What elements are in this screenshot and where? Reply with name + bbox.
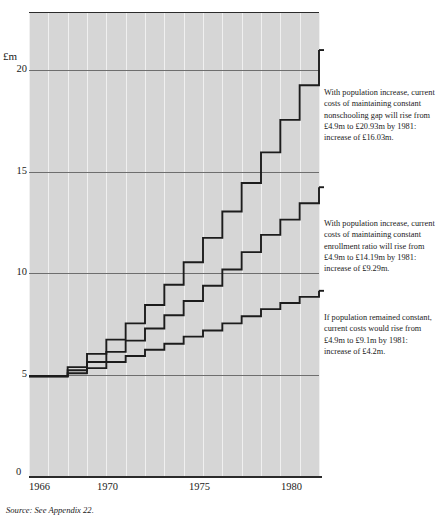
vertical-gridline [319, 13, 320, 476]
horizontal-gridline [29, 172, 319, 173]
horizontal-gridline [29, 273, 319, 274]
vertical-gridline [242, 13, 243, 476]
figure-container: £m 20 15 10 5 0 1966 1970 1975 1980 With… [0, 0, 439, 526]
vertical-gridline [300, 13, 301, 476]
y-axis-labels: £m 20 15 10 5 [0, 0, 27, 526]
vertical-gridline [164, 13, 165, 476]
plot-area [29, 12, 319, 476]
vertical-gridline [203, 13, 204, 476]
annotation-constant-population: If population remained constant, current… [324, 312, 436, 357]
vertical-gridline [280, 13, 281, 476]
annotation-nonschooling-gap: With population increase, current costs … [324, 87, 436, 143]
vertical-gridline [184, 13, 185, 476]
vertical-gridline [126, 13, 127, 476]
y-tick-10: 10 [1, 267, 27, 278]
y-tick-20: 20 [1, 64, 27, 75]
vertical-gridline [68, 13, 69, 476]
vertical-gridline [29, 13, 30, 476]
x-tick-1980: 1980 [281, 481, 302, 492]
y-axis-unit-label: £m [3, 50, 17, 62]
y-tick-5: 5 [1, 369, 27, 380]
source-note: Source: See Appendix 22. [6, 505, 94, 515]
x-tick-1970: 1970 [97, 481, 118, 492]
vertical-gridline [145, 13, 146, 476]
vertical-gridline [222, 13, 223, 476]
y-tick-15: 15 [1, 166, 27, 177]
horizontal-gridline [29, 70, 319, 71]
x-tick-1975: 1975 [189, 481, 210, 492]
vertical-gridline [261, 13, 262, 476]
vertical-gridline [48, 13, 49, 476]
x-tick-1966: 1966 [29, 481, 50, 492]
vertical-gridline [87, 13, 88, 476]
x-axis-line [29, 476, 322, 478]
vertical-gridline [106, 13, 107, 476]
annotation-enrollment-ratio: With population increase, current costs … [324, 218, 436, 274]
y-tick-zero: 0 [16, 466, 21, 477]
horizontal-gridline [29, 375, 319, 376]
